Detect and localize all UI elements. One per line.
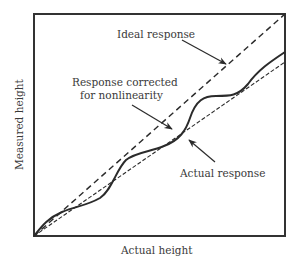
actual-label: Actual response — [179, 167, 265, 179]
ideal-label: Ideal response — [117, 28, 195, 40]
y-axis-label: Measured height — [13, 79, 25, 170]
ideal-arrow — [182, 40, 226, 64]
corrected-label-line2: for nonlinearity — [80, 89, 163, 101]
ideal-response-line — [34, 14, 285, 236]
chart: Ideal response Response corrected for no… — [0, 0, 301, 260]
corrected-label-line1: Response corrected — [72, 76, 178, 88]
x-axis-label: Actual height — [120, 244, 193, 256]
corrected-arrow — [132, 105, 172, 129]
actual-arrow — [189, 140, 215, 162]
